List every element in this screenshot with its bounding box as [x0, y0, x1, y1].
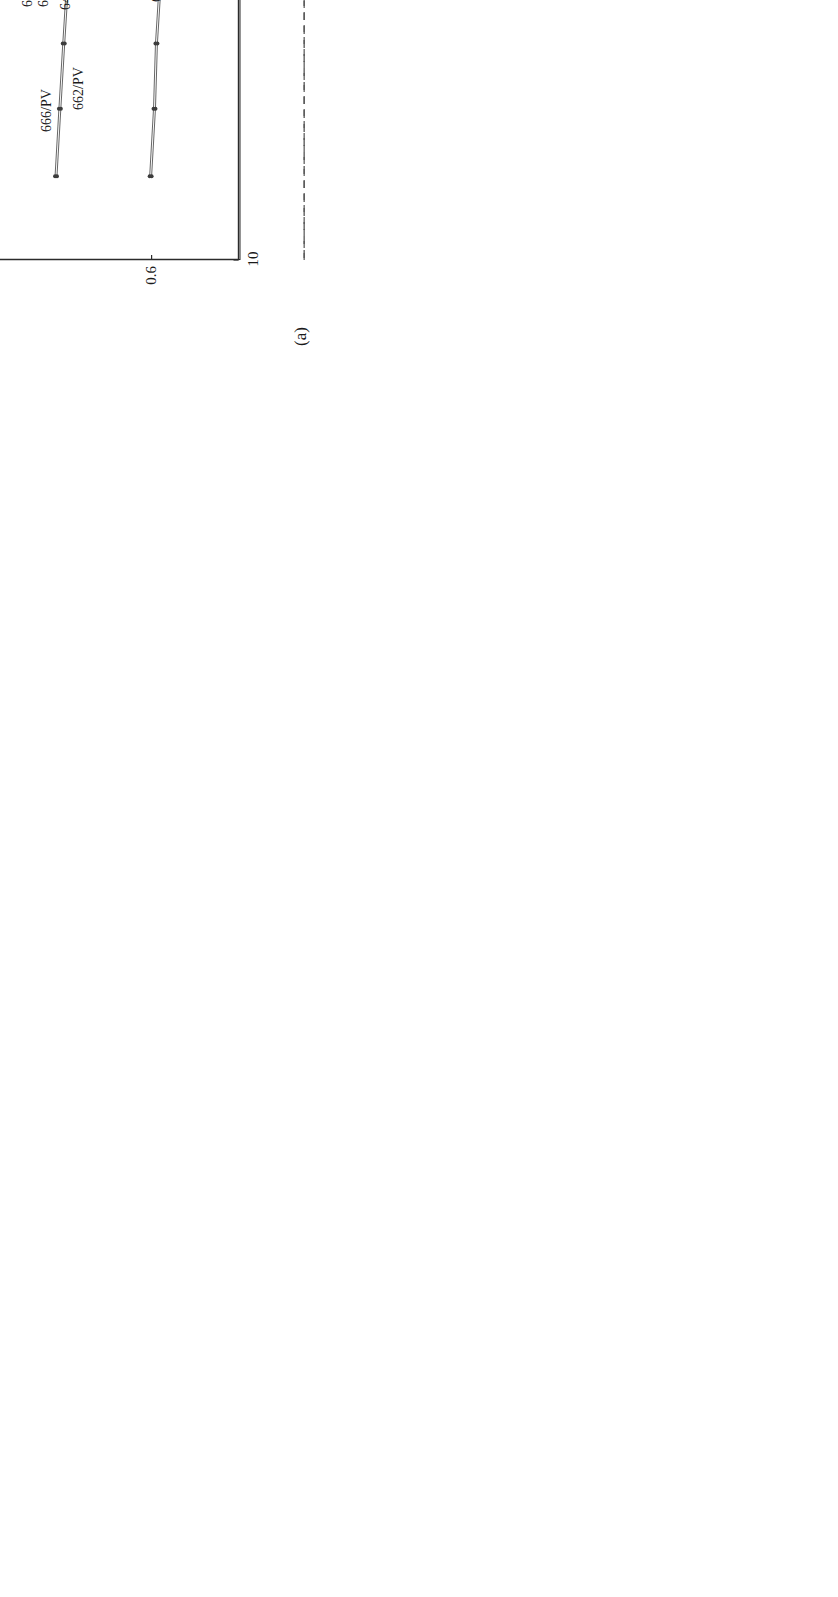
- series-label: 641/MT: [58, 0, 74, 10]
- series-ldul-1-pv: [0, 0, 22, 178]
- series-label: 661/PV: [36, 0, 52, 7]
- series-641-mt: [0, 0, 18, 178]
- panel-a: 1010010000.80.70.6Mean stress, p (kPa)Vo…: [0, 0, 239, 260]
- series-663-pv: [0, 0, 17, 178]
- panel-id: (a): [291, 327, 311, 346]
- series-662-pv: [0, 0, 3, 178]
- series-label: 666/PV: [39, 89, 55, 132]
- series-661-pv: [0, 0, 13, 178]
- ytick-label: 0.6: [143, 266, 160, 302]
- series-label: 667/PV: [149, 0, 165, 2]
- series-label: 665/PV: [20, 0, 36, 7]
- series-ldul-3-pv: [150, 0, 189, 178]
- series-665-pv: [0, 0, 7, 178]
- series-label: 662/PV: [71, 67, 87, 110]
- plot-area-a: [0, 0, 241, 260]
- figure-stage: 1010010000.80.70.6Mean stress, p (kPa)Vo…: [0, 0, 459, 380]
- x-axis-title: Mean stress, p (kPa): [267, 0, 285, 10]
- xtick-label: 10: [245, 246, 262, 272]
